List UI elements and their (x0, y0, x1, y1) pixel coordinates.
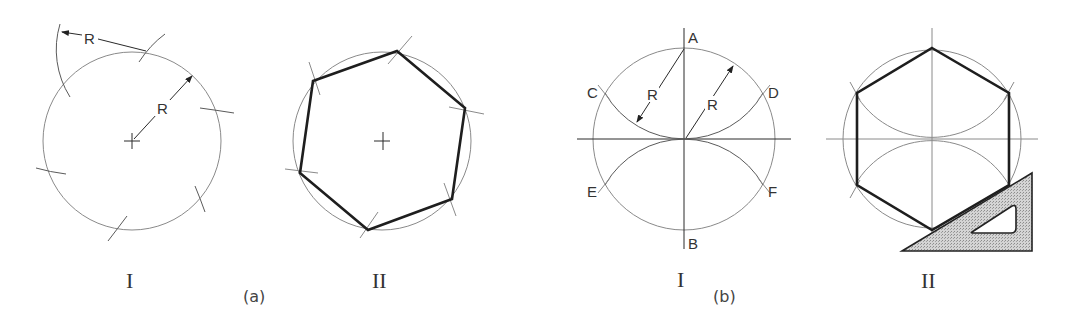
panel-b-caption: (b) (713, 287, 736, 306)
panel-a-step-2: II (285, 36, 484, 293)
step-off-arc (56, 24, 70, 97)
point-label-e: E (587, 183, 597, 200)
arc-intersection-ticks (285, 36, 484, 238)
arc-radius-leader (98, 39, 146, 51)
panel-b-step-2: II (826, 28, 1038, 293)
step-label-roman-2: II (921, 268, 936, 293)
panel-b-step-1: R R A B C D E F I (577, 28, 791, 292)
step-label-roman-1: I (126, 268, 133, 293)
panel-a-step-1: R R I (36, 24, 234, 293)
point-label-c: C (587, 84, 598, 101)
center-mark-icon (374, 132, 390, 150)
radius-label-left: R (647, 86, 658, 103)
point-label-a: A (688, 29, 698, 46)
arc-radius-label: R (84, 30, 95, 47)
step-label-roman-1: I (677, 267, 684, 292)
point-label-f: F (768, 183, 777, 200)
hexagon-construction-figure: R R I (a) II (0, 0, 1077, 319)
radius-label: R (157, 100, 168, 117)
radius-label-right: R (707, 96, 718, 113)
step-label-roman-2: II (372, 268, 387, 293)
point-label-b: B (688, 235, 698, 252)
radius-dimension-left (637, 49, 684, 122)
point-label-d: D (768, 84, 779, 101)
panel-a-caption: (a) (243, 287, 265, 306)
triangle-set-square-icon (902, 173, 1032, 251)
